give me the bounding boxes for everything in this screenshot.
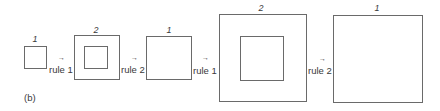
step-5-label: 1 xyxy=(371,4,383,13)
transition-1-rule: rule 1 xyxy=(49,65,73,75)
step-3-square xyxy=(146,36,192,80)
arrow-icon: → xyxy=(202,54,209,61)
step-4-inner-square xyxy=(240,36,284,81)
step-2-inner-square xyxy=(84,46,108,69)
step-5-square xyxy=(333,15,423,103)
step-4-label: 2 xyxy=(255,4,267,13)
step-1-square xyxy=(24,46,47,69)
step-1-label: 1 xyxy=(29,35,41,44)
transition-2-rule: rule 2 xyxy=(121,65,145,75)
arrow-icon: → xyxy=(131,54,138,61)
arrow-icon: → xyxy=(319,55,326,62)
transition-4-rule: rule 2 xyxy=(308,66,332,76)
figure-caption: (b) xyxy=(24,93,36,103)
transition-3-rule: rule 1 xyxy=(193,66,217,76)
step-3-label: 1 xyxy=(163,26,175,35)
step-2-label: 2 xyxy=(90,26,102,35)
arrow-icon: → xyxy=(58,54,65,61)
